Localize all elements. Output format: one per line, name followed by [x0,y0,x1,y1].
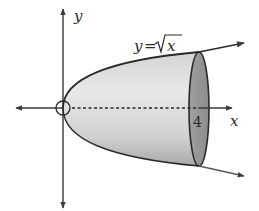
x-axis-label: x [230,112,239,130]
paraboloid-diagram: y x 4 y = x [0,0,259,211]
curve-upper-extension [199,43,244,52]
curve-equation-label: y = x [133,35,182,55]
equation-lhs: y [133,37,143,55]
end-cap-ellipse [189,52,209,166]
paraboloid-solid [63,52,199,166]
curve-lower-extension [199,166,244,176]
equation-rhs: x [167,37,176,55]
x-bound-label: 4 [193,114,202,130]
y-axis-label: y [73,7,83,25]
diagram-canvas: y x 4 y = x [0,0,259,211]
equation-equals: = [144,37,157,55]
